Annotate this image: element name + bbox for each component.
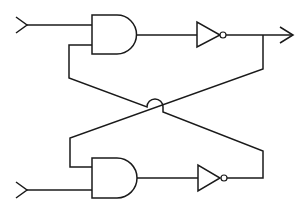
top-and-gate-icon: [92, 15, 137, 54]
bottom-input-terminal: [16, 182, 92, 198]
circuit-canvas: [0, 0, 301, 213]
top-input-chevron-icon: [16, 17, 27, 33]
top-not-gate-icon: [197, 22, 220, 47]
bottom-not-bubble-icon: [221, 175, 227, 181]
bottom-input-chevron-icon: [16, 182, 27, 198]
top-not-bubble-icon: [220, 32, 226, 38]
bottom-and-gate-icon: [92, 158, 137, 198]
feedback-wire-top-to-bottom: [70, 35, 263, 167]
top-input-terminal: [16, 17, 92, 33]
latch-circuit-diagram: [0, 0, 301, 213]
bottom-not-gate-icon: [198, 165, 220, 191]
